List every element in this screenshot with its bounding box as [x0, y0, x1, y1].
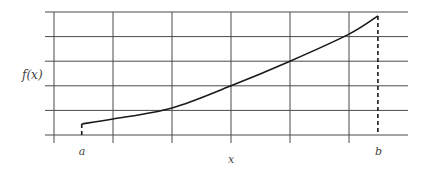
graph-canvas: f(x) x a b [0, 0, 428, 172]
function-graph: f(x) x a b [0, 0, 428, 172]
interval-end-label: b [375, 145, 382, 158]
function-curve [82, 16, 378, 124]
interval-start-label: a [79, 145, 86, 158]
x-axis-label: x [228, 153, 235, 166]
y-axis-label: f(x) [21, 68, 43, 82]
